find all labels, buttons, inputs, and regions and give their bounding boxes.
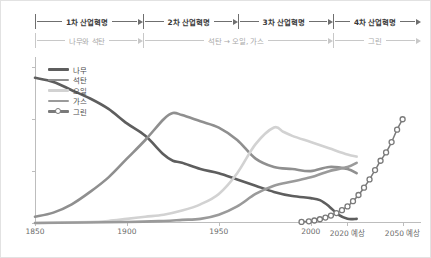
energy-divider-tick — [143, 33, 144, 48]
x-tick-label: 2020 예상 — [330, 227, 365, 238]
era-line-right — [112, 21, 137, 22]
series-marker-그린 — [384, 150, 389, 155]
legend-label: 나무 — [73, 64, 87, 75]
era-line-left — [335, 21, 350, 22]
era-cell-1st: 1차 산업혁명 — [35, 13, 143, 30]
energy-cell-green: 그린 — [333, 32, 421, 49]
era-line-right — [309, 21, 328, 22]
legend-label: 오일 — [73, 85, 87, 96]
legend-item-가스[interactable]: 가스 — [48, 96, 106, 106]
era-row-energy: 나무와 석탄 석탄 → 오일, 가스 그린 — [35, 32, 421, 49]
energy-divider-tick — [35, 33, 36, 48]
era-label-3rd: 3차 산업혁명 — [259, 16, 309, 27]
legend-swatch-marker-icon — [55, 108, 61, 114]
era-line-left — [240, 21, 259, 22]
series-marker-그린 — [312, 218, 317, 223]
series-marker-그린 — [389, 140, 394, 145]
series-line-오일 — [35, 127, 357, 223]
era-line-right — [214, 21, 233, 22]
legend-swatch-line — [48, 89, 69, 92]
legend-item-그린[interactable]: 그린 — [48, 106, 106, 116]
x-tick-mark — [403, 223, 404, 226]
legend-swatch-icon — [48, 75, 69, 85]
energy-line-left — [145, 40, 204, 41]
industrial-revolution-band: 1차 산업혁명 2차 산업혁명 3차 산업혁명 4차 — [35, 13, 421, 51]
legend-swatch-line — [48, 100, 69, 103]
series-marker-그린 — [350, 199, 355, 204]
legend-swatch-icon — [48, 96, 69, 106]
series-marker-그린 — [323, 215, 328, 220]
x-tick-label: 1950 — [209, 227, 228, 236]
era-label-2nd: 2차 산업혁명 — [164, 16, 214, 27]
chart-figure: 1차 산업혁명 2차 산업혁명 3차 산업혁명 4차 — [0, 0, 431, 258]
era-divider-tick — [333, 14, 334, 29]
legend-swatch-icon — [48, 106, 69, 116]
series-marker-그린 — [334, 211, 339, 216]
era-arrow-icon — [416, 19, 421, 25]
x-tick-label: 1900 — [117, 227, 136, 236]
series-marker-그린 — [345, 204, 350, 209]
energy-line-right — [386, 40, 415, 41]
x-tick-mark — [347, 223, 348, 226]
energy-line-left — [335, 40, 364, 41]
legend-swatch-line — [48, 79, 69, 82]
energy-label-wood-coal: 나무와 석탄 — [65, 35, 110, 46]
era-label-1st: 1차 산업혁명 — [62, 16, 112, 27]
legend-label: 가스 — [73, 95, 87, 106]
legend-item-오일[interactable]: 오일 — [48, 85, 106, 95]
series-marker-그린 — [339, 208, 344, 213]
era-cell-4th: 4차 산업혁명 — [333, 13, 421, 30]
era-line-right — [400, 21, 415, 22]
energy-cell-1st: 나무와 석탄 — [35, 32, 143, 49]
series-marker-그린 — [328, 213, 333, 218]
series-marker-그린 — [306, 219, 311, 224]
energy-cell-coal-oil-gas: 석탄 → 오일, 가스 — [143, 32, 333, 49]
x-tick-label: 1850 — [25, 227, 44, 236]
energy-arrow-icon — [416, 38, 421, 44]
legend-swatch-icon — [48, 85, 69, 95]
series-marker-그린 — [317, 217, 322, 222]
series-marker-그린 — [373, 168, 378, 173]
legend-label: 그린 — [73, 106, 87, 117]
legend-swatch-icon — [48, 64, 69, 74]
energy-line-right — [109, 40, 137, 41]
series-marker-그린 — [356, 192, 361, 197]
era-line-left — [145, 21, 164, 22]
series-marker-그린 — [362, 185, 367, 190]
series-line-석탄 — [35, 113, 357, 217]
legend-item-석탄[interactable]: 석탄 — [48, 75, 106, 85]
legend-label: 석탄 — [73, 74, 87, 85]
era-divider-tick — [35, 14, 36, 29]
energy-label-green: 그린 — [364, 35, 386, 46]
x-tick-mark — [127, 223, 128, 226]
series-marker-그린 — [299, 219, 304, 224]
x-tick-label: 2050 예상 — [385, 227, 420, 238]
era-cell-3rd: 3차 산업혁명 — [238, 13, 333, 30]
series-marker-그린 — [378, 158, 383, 163]
era-label-4th: 4차 산업혁명 — [350, 16, 400, 27]
energy-divider-tick — [333, 33, 334, 48]
era-cell-2nd: 2차 산업혁명 — [143, 13, 238, 30]
x-tick-label: 2000 — [301, 227, 320, 236]
energy-line-left — [37, 40, 65, 41]
series-marker-그린 — [395, 127, 400, 132]
era-line-left — [37, 21, 62, 22]
era-divider-tick — [238, 14, 239, 29]
x-tick-mark — [219, 223, 220, 226]
chart-legend: 나무석탄오일가스그린 — [48, 64, 106, 117]
energy-label-coal-oil-gas: 석탄 → 오일, 가스 — [204, 35, 269, 46]
series-marker-그린 — [400, 117, 405, 122]
era-divider-tick — [143, 14, 144, 29]
legend-swatch-line — [48, 68, 69, 71]
energy-line-right — [268, 40, 327, 41]
series-marker-그린 — [367, 177, 372, 182]
legend-item-나무[interactable]: 나무 — [48, 64, 106, 74]
era-row-revolutions: 1차 산업혁명 2차 산업혁명 3차 산업혁명 4차 — [35, 13, 421, 30]
